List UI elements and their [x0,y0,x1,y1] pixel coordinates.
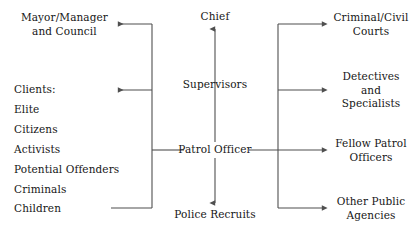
node-detectives-specialists: Detectives and Specialists [332,70,410,111]
node-supervisors: Supervisors [183,78,247,92]
node-clients-heading: Clients: [14,83,56,97]
list-item-activists: Activists [14,143,60,157]
list-item-potential-offenders: Potential Offenders [14,163,119,177]
list-item-children: Children [14,202,61,216]
node-police-recruits: Police Recruits [174,208,255,222]
node-mayor-manager-council: Mayor/Manager and Council [21,11,108,38]
list-item-criminals: Criminals [14,183,66,197]
diagram-canvas: Chief Supervisors Patrol Officer Police … [0,0,414,232]
node-patrol-officer: Patrol Officer [178,143,251,157]
list-item-elite: Elite [14,103,39,117]
node-criminal-civil-courts: Criminal/Civil Courts [332,11,410,38]
list-item-citizens: Citizens [14,123,58,137]
node-chief: Chief [201,10,230,24]
node-fellow-patrol-officers: Fellow Patrol Officers [332,137,410,164]
node-other-public-agencies: Other Public Agencies [332,195,410,222]
